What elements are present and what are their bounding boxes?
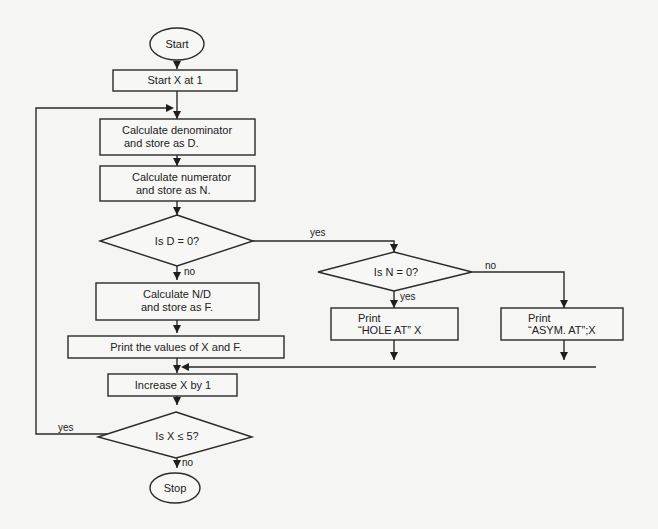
print-xf-process: Print the values of X and F. [68,336,284,358]
is-d-zero-label: Is D = 0? [155,235,199,247]
arrow-down-icon [560,352,568,360]
flowchart-svg: Start Start X at 1 Calculate denominator… [0,0,658,529]
arrow-down-icon [173,365,181,373]
start-terminal: Start [150,28,204,60]
start-label: Start [165,38,188,50]
print-hole-line2: “HOLE AT” X [358,324,422,336]
arrow-down-icon [390,300,398,308]
d-zero-yes-label: yes [310,227,326,238]
print-hole-process: Print “HOLE AT” X [331,308,458,340]
is-x-le-5-decision: Is X ≤ 5? [98,412,252,458]
init-label: Start X at 1 [147,74,202,86]
calc-denominator-process: Calculate denominator and store as D. [100,119,255,155]
arrow-down-icon [390,352,398,360]
arrow-down-icon [560,300,568,308]
is-d-zero-decision: Is D = 0? [100,215,253,266]
print-asym-line2: “ASYM. AT”;X [528,324,596,336]
increase-x-label: Increase X by 1 [135,379,211,391]
n-zero-no-label: no [485,260,497,271]
arrow-down-icon [173,325,181,333]
calc-f-line2: and store as F. [141,301,213,313]
print-xf-label: Print the values of X and F. [110,341,241,353]
arrow-down-icon [173,397,181,405]
calc-numerator-process: Calculate numerator and store as N. [100,166,255,201]
arrow-down-icon [173,61,181,69]
arrow-down-icon [173,111,181,119]
is-n-zero-label: Is N = 0? [374,266,418,278]
print-hole-line1: Print [358,312,381,324]
flowchart-canvas: Start Start X at 1 Calculate denominator… [0,0,658,529]
arrow-left-icon [181,363,189,371]
d-zero-no-label: no [184,266,196,277]
calc-n-line1: Calculate numerator [132,171,231,183]
print-asym-process: Print “ASYM. AT”;X [501,308,623,340]
init-process: Start X at 1 [113,70,237,91]
arrow-down-icon [173,158,181,166]
calc-d-line2: and store as D. [124,137,199,149]
stop-terminal: Stop [150,473,200,503]
calc-f-line1: Calculate N/D [143,288,211,300]
print-asym-line1: Print [528,312,551,324]
x-le-5-no-label: no [182,457,194,468]
arrow-down-icon [173,207,181,215]
arrow-down-icon [173,272,181,280]
arrow-down-icon [390,244,398,252]
is-n-zero-decision: Is N = 0? [318,252,472,291]
arrow-down-icon [173,460,181,468]
calc-d-line1: Calculate denominator [122,124,232,136]
is-x-le-5-label: Is X ≤ 5? [155,430,198,442]
stop-label: Stop [164,482,187,494]
n-zero-yes-label: yes [400,291,416,302]
increase-x-process: Increase X by 1 [108,374,237,396]
calc-n-line2: and store as N. [136,184,211,196]
arrow-right-icon [166,104,174,112]
calc-f-process: Calculate N/D and store as F. [96,283,259,320]
x-le-5-yes-label: yes [58,422,74,433]
